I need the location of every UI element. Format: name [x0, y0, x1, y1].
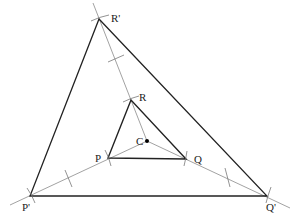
label-p: P — [95, 152, 101, 164]
construction-rays — [10, 3, 290, 208]
label-p-prime: P' — [22, 201, 30, 213]
label-c: C — [136, 135, 143, 147]
label-r: R — [139, 91, 147, 103]
label-r-prime: R' — [111, 12, 120, 24]
inner-triangle — [108, 100, 186, 159]
outer-triangle — [30, 19, 267, 196]
equal-segment-ticks — [65, 55, 230, 187]
ray-c-to-q-prime — [147, 141, 290, 208]
label-q: Q — [194, 153, 202, 165]
label-q-prime: Q' — [266, 201, 276, 213]
enlargement-diagram: C P Q R P' Q' R' — [0, 0, 300, 218]
center-point — [145, 139, 149, 143]
